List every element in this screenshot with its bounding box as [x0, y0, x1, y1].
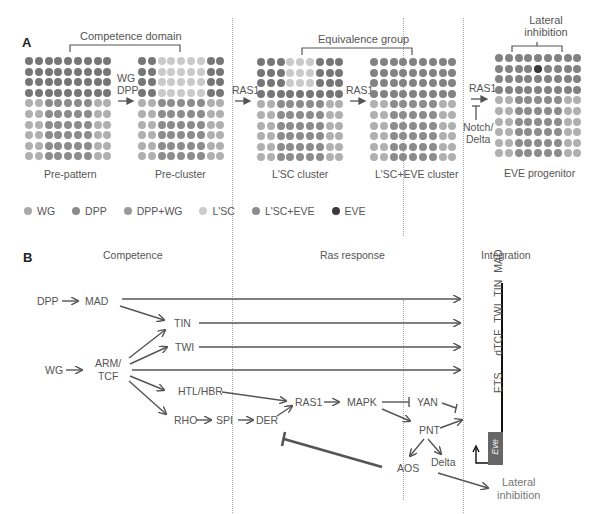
- node-wg: WG: [45, 364, 63, 376]
- lateral-inhibition-label-b: Lateral inhibition: [497, 476, 540, 502]
- node-aos: AOS: [397, 462, 419, 474]
- node-spi: SPI: [216, 414, 233, 426]
- node-mapk: MAPK: [347, 396, 377, 408]
- node-yan: YAN: [417, 396, 438, 408]
- node-arm: ARM/: [95, 357, 121, 370]
- enhancer-sites: ETS dTCF TWI TIN MAD: [492, 283, 506, 393]
- node-tcf: TCF: [95, 370, 121, 383]
- site-dtcf: dTCF: [492, 329, 504, 355]
- aos-inhibits-der: [282, 432, 382, 467]
- node-ras1: RAS1: [295, 396, 322, 408]
- lateral-b-line2: inhibition: [497, 489, 540, 502]
- node-rho: RHO: [174, 414, 197, 426]
- site-mad: MAD: [492, 250, 504, 273]
- node-mad: MAD: [85, 295, 108, 307]
- node-der: DER: [256, 414, 278, 426]
- site-tin: TIN: [492, 280, 504, 297]
- node-pnt: PNT: [419, 424, 440, 436]
- node-twi: TWI: [175, 341, 194, 353]
- site-ets: ETS: [492, 373, 504, 393]
- node-htl-hbr: HTL/HBR: [178, 385, 223, 397]
- node-delta: Delta: [431, 456, 456, 468]
- node-arm-tcf: ARM/ TCF: [95, 357, 121, 383]
- site-twi: TWI: [492, 303, 504, 322]
- node-tin: TIN: [174, 317, 191, 329]
- gene-eve: Eve: [490, 436, 500, 458]
- lateral-b-line1: Lateral: [497, 476, 540, 489]
- panel-b-network: [0, 0, 600, 514]
- node-dpp: DPP: [37, 295, 59, 307]
